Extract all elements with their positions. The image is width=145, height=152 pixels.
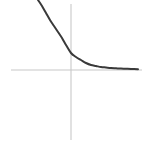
exponential-decay-plot	[0, 0, 145, 152]
plot-canvas	[0, 0, 145, 152]
plot-background	[0, 0, 145, 152]
